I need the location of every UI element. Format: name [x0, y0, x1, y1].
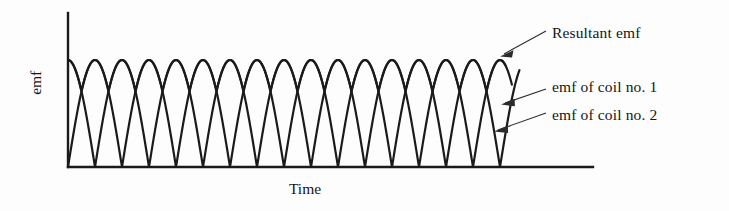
curve-resultant-emf: [68, 60, 505, 91]
leader-resultant: [500, 31, 546, 58]
x-axis-label: Time: [235, 181, 375, 197]
callout-label-coil-no-2: emf of coil no. 2: [552, 107, 657, 123]
curve-coil-no-1: [68, 60, 512, 166]
callout-label-coil-no-1: emf of coil no. 1: [552, 79, 657, 95]
y-axis-label: emf: [28, 61, 44, 105]
callout-label-resultant-emf: Resultant emf: [552, 25, 640, 41]
leader-coil1: [501, 89, 546, 106]
emf-waveform-figure: emf Time Resultant emf emf of coil no. 1…: [0, 0, 729, 211]
leader-coil2: [494, 113, 546, 133]
callout-leaders: [494, 31, 546, 133]
waveform-curves: [68, 60, 519, 167]
